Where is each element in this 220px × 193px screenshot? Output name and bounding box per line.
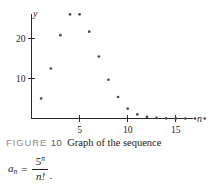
data-point	[184, 117, 187, 120]
formula-period: .	[49, 169, 52, 182]
y-axis-label: y	[32, 8, 38, 19]
scatter-plot: 51015 1020 y n	[0, 0, 220, 133]
data-point	[203, 117, 206, 120]
figure-formula: an = 5n n! .	[8, 155, 52, 182]
data-point	[146, 116, 149, 119]
formula-lhs: an	[8, 162, 17, 176]
x-tick-label: 10	[123, 125, 133, 134]
x-axis-label: n	[197, 113, 202, 124]
data-point	[174, 117, 177, 120]
formula-equals: =	[21, 163, 27, 175]
formula-denominator: n!	[33, 170, 48, 183]
data-point	[136, 113, 139, 116]
figure-container: 51015 1020 y n FIGURE 10 Graph of the se…	[0, 0, 220, 193]
data-point	[69, 13, 72, 16]
data-point	[194, 117, 197, 120]
formula-numerator-exponent: n	[41, 154, 45, 163]
data-point	[59, 34, 62, 37]
data-point	[78, 13, 81, 16]
data-point	[165, 117, 168, 120]
data-point	[117, 96, 120, 99]
y-tick-group: 1020	[16, 34, 35, 84]
data-point	[88, 30, 91, 33]
data-point	[155, 117, 158, 120]
x-tick-label: 5	[77, 125, 82, 134]
formula-lhs-subscript: n	[14, 167, 18, 176]
figure-number-text: 10	[51, 137, 62, 148]
y-tick-label: 20	[16, 34, 26, 44]
y-tick-label: 10	[16, 74, 26, 84]
data-point	[49, 67, 52, 70]
plot-svg: 51015 1020 y n	[0, 0, 220, 133]
x-tick-label: 15	[171, 125, 181, 134]
caption-description: Graph of the sequence	[67, 137, 161, 148]
data-point	[126, 107, 129, 110]
data-point	[97, 55, 100, 58]
formula-numerator: 5n	[33, 155, 48, 169]
caption-line: FIGURE 10 Graph of the sequence	[6, 136, 218, 149]
data-point	[40, 97, 43, 100]
data-point-group	[40, 13, 206, 120]
figure-caption: FIGURE 10 Graph of the sequence	[6, 136, 218, 149]
figure-label-text: FIGURE	[6, 137, 47, 148]
data-point	[107, 78, 110, 81]
formula-fraction: 5n n!	[32, 155, 48, 182]
axes-group	[32, 14, 194, 119]
